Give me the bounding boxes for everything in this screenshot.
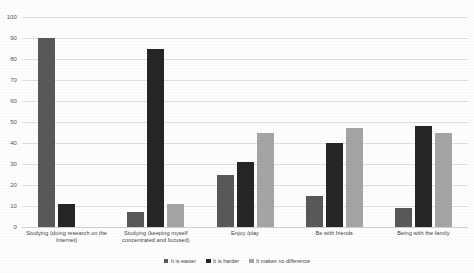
x-axis: Studying (doing research on the Internet…: [22, 230, 468, 254]
y-axis-tick-label: 100: [7, 14, 17, 21]
bar: [415, 126, 432, 227]
legend-item[interactable]: It is easier: [164, 258, 196, 264]
bar: [257, 133, 274, 228]
x-axis-category-label: Be with friends: [290, 230, 379, 254]
x-axis-category-label: Being with the family: [379, 230, 468, 254]
legend-label: It makes no difference: [256, 258, 310, 264]
y-axis-tick-label: 40: [10, 140, 17, 147]
y-axis-tick-label: 90: [10, 35, 17, 42]
y-axis-tick-label: 30: [10, 161, 17, 168]
x-axis-category-label: Studying (doing research on the Internet…: [22, 230, 111, 254]
legend-swatch-icon: [206, 259, 211, 264]
y-axis-tick-label: 0: [14, 224, 17, 231]
bars: [379, 17, 468, 227]
bar: [38, 38, 55, 227]
bar-chart: 1009080706050403020100 Studying (doing r…: [0, 0, 474, 273]
bar: [147, 49, 164, 228]
bar: [58, 204, 75, 227]
bar-group: [111, 17, 200, 227]
bar-group: [22, 17, 111, 227]
legend-label: It is easier: [171, 258, 196, 264]
bar: [127, 212, 144, 227]
y-axis-tick-label: 60: [10, 98, 17, 105]
bar: [326, 143, 343, 227]
bar: [237, 162, 254, 227]
bar-group: [379, 17, 468, 227]
y-axis: 1009080706050403020100: [0, 17, 20, 227]
gridline: [22, 227, 468, 228]
bars: [111, 17, 200, 227]
bar: [217, 175, 234, 228]
bar-group: [290, 17, 379, 227]
bar: [167, 204, 184, 227]
x-axis-category-label: Studying (keeping myself concentrated an…: [111, 230, 200, 254]
y-axis-tick-label: 70: [10, 77, 17, 84]
x-axis-category-label: Enjoy /play: [200, 230, 289, 254]
y-axis-tick-label: 80: [10, 56, 17, 63]
plot-area: [22, 17, 468, 227]
bar-group: [200, 17, 289, 227]
y-axis-tick-label: 10: [10, 203, 17, 210]
legend-item[interactable]: It makes no difference: [249, 258, 310, 264]
bar: [346, 128, 363, 227]
y-axis-tick-label: 50: [10, 119, 17, 126]
chart-legend: It is easierIt is harderIt makes no diff…: [0, 258, 474, 264]
bar-groups: [22, 17, 468, 227]
legend-item[interactable]: It is harder: [206, 258, 239, 264]
bars: [22, 17, 111, 227]
bar: [395, 208, 412, 227]
bar: [306, 196, 323, 228]
legend-swatch-icon: [249, 259, 254, 264]
legend-swatch-icon: [164, 259, 169, 264]
bars: [290, 17, 379, 227]
y-axis-tick-label: 20: [10, 182, 17, 189]
bars: [200, 17, 289, 227]
legend-label: It is harder: [213, 258, 239, 264]
bar: [435, 133, 452, 228]
